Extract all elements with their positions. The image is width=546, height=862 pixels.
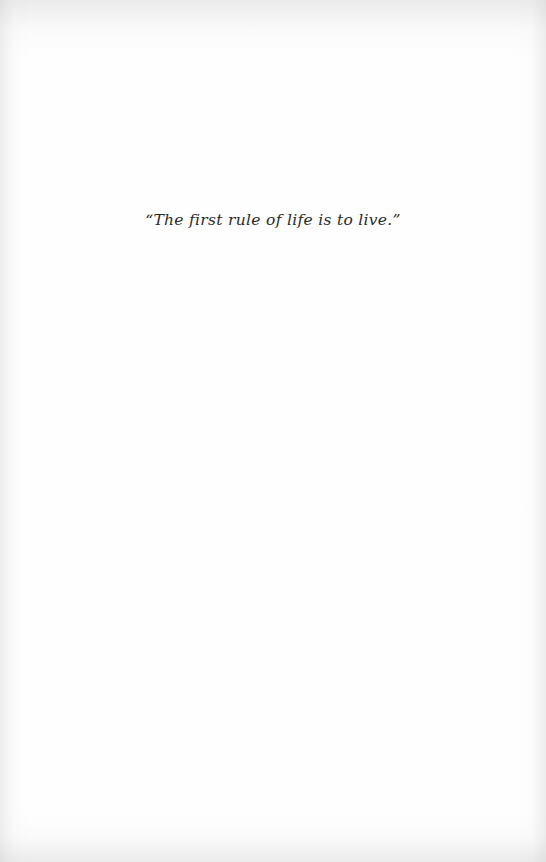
epigraph-quote: “The first rule of life is to live.” [0,209,546,231]
book-page: “The first rule of life is to live.” [0,0,546,862]
